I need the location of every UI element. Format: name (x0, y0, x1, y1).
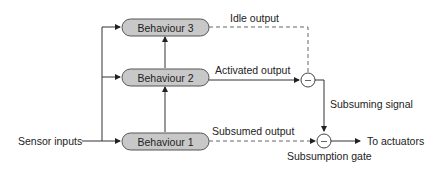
behaviour-2-box: Behaviour 2 (122, 69, 209, 86)
behaviour-3-label: Behaviour 3 (137, 22, 193, 34)
subsuming-signal-label: Subsuming signal (330, 98, 413, 110)
behaviour-1-label: Behaviour 1 (137, 136, 193, 148)
subsumption-gate-label: Subsumption gate (287, 150, 372, 162)
subsumption-gate (317, 134, 331, 148)
activated-output-label: Activated output (215, 64, 290, 76)
sensor-inputs-label: Sensor inputs (18, 135, 82, 147)
inhibition-gate (301, 73, 315, 87)
behaviour-3-box: Behaviour 3 (122, 19, 209, 36)
subsuming-signal-arrow (315, 80, 324, 131)
subsumed-output-label: Subsumed output (212, 125, 294, 137)
to-actuators-label: To actuators (367, 135, 424, 147)
idle-output-label: Idle output (230, 12, 279, 24)
subsumption-diagram: Sensor inputs Behaviour 3 Behaviour 2 Be… (0, 0, 448, 170)
behaviour-2-label: Behaviour 2 (137, 72, 193, 84)
behaviour-1-box: Behaviour 1 (122, 133, 209, 150)
